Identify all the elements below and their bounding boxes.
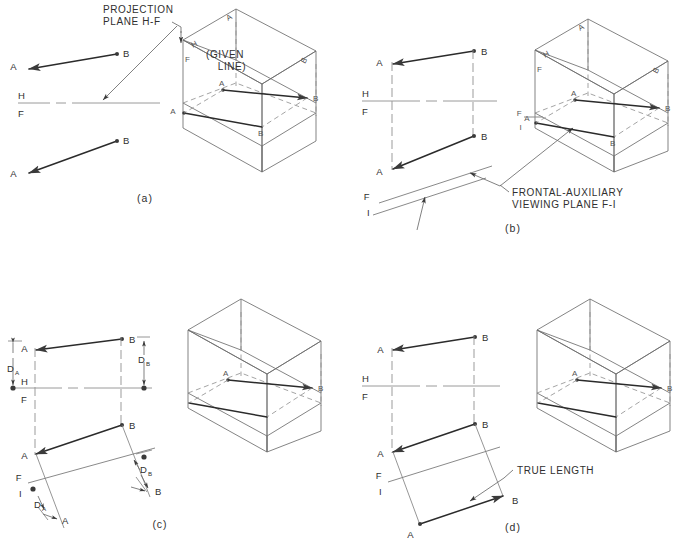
pictorial-front-b-label: B [610,139,616,148]
projection-plane-hf-leader [103,26,177,100]
frontal-aux-leader-to-pictorial [500,128,573,186]
panel-d-pictorial: A B [537,299,673,452]
reference-label-f: F [362,391,368,402]
pictorial-projector-a-diagonal [538,380,577,403]
point-a-front-label: A [377,448,384,459]
box-mid-plane-hidden [537,373,670,403]
box-right-face [616,341,670,452]
line-ab-front-view [29,141,117,173]
dim-db-top-label: D [138,354,145,365]
pictorial-top-b-label: B [299,56,310,65]
aux-fold-label-i: I [19,488,22,499]
panel-b-front-view: B A [376,131,488,177]
reference-label-h: H [362,373,369,384]
given-line-note: (GIVEN LINE) [206,49,246,72]
point-b-top-marker [115,52,119,56]
panel-d-caption: (d) [505,521,521,533]
box-far-top-right-edge [236,60,316,103]
point-a-top-label: A [21,343,28,354]
point-a-top-label: A [376,57,383,68]
panel-c: B A D A D B H F [7,299,324,530]
point-b-front-label: B [481,131,488,142]
aux-fold-label-f: F [16,472,22,483]
aux-b-arrow [131,487,145,491]
dimension-depth-b-top: D B [137,337,150,385]
panel-b-top-view: B A [376,46,488,68]
fold-line-fi-upper [28,448,155,483]
aux-fold-label-i: I [367,207,370,218]
pictorial-mid-b-label: B [318,384,324,393]
pictorial-projector-a-diagonal [536,100,575,123]
technical-drawing-figure: PROJECTION PLANE H-F B A H F B [0,0,688,554]
aux-point-a-marker [418,522,422,526]
panel-c-reference-line: H F [10,376,152,405]
given-line-note-line2: LINE) [218,61,247,72]
hf-point-a-marker [10,385,15,390]
reference-label-h: H [362,88,369,99]
aux-point-a-label: A [407,529,414,540]
point-b-front-label: B [123,135,130,146]
given-line-note-line1: (GIVEN [206,49,244,60]
reference-label-f: F [362,106,368,117]
point-b-front-marker [472,134,476,138]
dimension-depth-b-aux: D B [134,460,152,488]
pictorial-projector-a-diagonal [189,380,228,403]
dim-db-aux-label: D [140,464,147,475]
aux-fold-label-f: F [364,191,370,202]
fold-line-fi-lower [373,178,486,215]
pictorial-aux-fold-label-i: I [519,123,522,132]
point-a-top-label: A [377,344,384,355]
line-ab-top-view [36,339,122,350]
line-ab-top-view [29,54,117,69]
frontal-auxiliary-note-line2: VIEWING PLANE F-I [512,199,616,210]
box-top-face [188,299,321,374]
panel-c-caption: (c) [152,518,167,530]
box-right-face [267,341,321,452]
panel-d-top-view: B A [377,332,489,355]
projection-plane-note: PROJECTION PLANE H-F [103,4,181,43]
point-b-front-label: B [482,419,489,430]
point-a-top-label: A [10,61,17,72]
aux-point-b-label: B [512,495,519,506]
box-left-face [535,50,614,172]
panel-d-aux-view: A B [407,495,519,540]
pictorial-mid-b-label: B [665,104,671,113]
panel-a-front-view: B A [10,135,130,179]
box-far-top-right-edge [588,70,668,113]
panel-a: PROJECTION PLANE H-F B A H F B [10,4,318,204]
dim-da-top-label: D [7,363,14,374]
point-b-front-marker [115,139,119,143]
reference-label-h: H [21,376,28,387]
panel-a-pictorial: (GIVEN LINE) H F A B A B A B [170,9,318,172]
true-length-note-text: TRUE LENGTH [517,465,594,476]
box-far-top-right-edge [241,350,321,393]
panel-c-aux-projector-b [122,425,150,497]
reference-label-h: H [18,90,25,101]
box-left-face [537,330,616,452]
box-mid-plane-hidden [188,373,321,403]
pictorial-mid-a-label: A [223,369,229,378]
hf-point-b-marker [141,385,146,390]
pictorial-front-a-label: A [170,107,176,116]
dim-da-aux-label: D [34,499,41,510]
reference-label-f: F [18,108,24,119]
true-length-note-hook [504,470,513,478]
line-ab-top-view [393,51,474,64]
true-length-note: TRUE LENGTH [470,465,594,501]
panel-d-aux-projector-b [475,424,503,496]
pictorial-top-a-label: A [225,12,235,23]
panel-c-pictorial: A B [188,299,324,452]
line-ab-front-view [393,136,474,169]
panel-b-auxiliary-fold: F I [364,166,492,230]
dim-db-top-subscript: B [146,360,150,367]
point-a-front-label: A [21,450,28,461]
point-b-top-label: B [482,332,489,343]
pictorial-top-b-label: B [651,66,662,75]
dim-db-aux-arrow-down [141,475,148,488]
point-b-front-label: B [129,420,136,431]
dim-db-aux-subscript: B [148,470,152,477]
box-right-face [262,51,316,172]
viewing-direction-arrow [417,197,425,230]
aux-point-a-label: A [62,515,69,526]
aux-fold-point-b-marker [141,454,146,459]
